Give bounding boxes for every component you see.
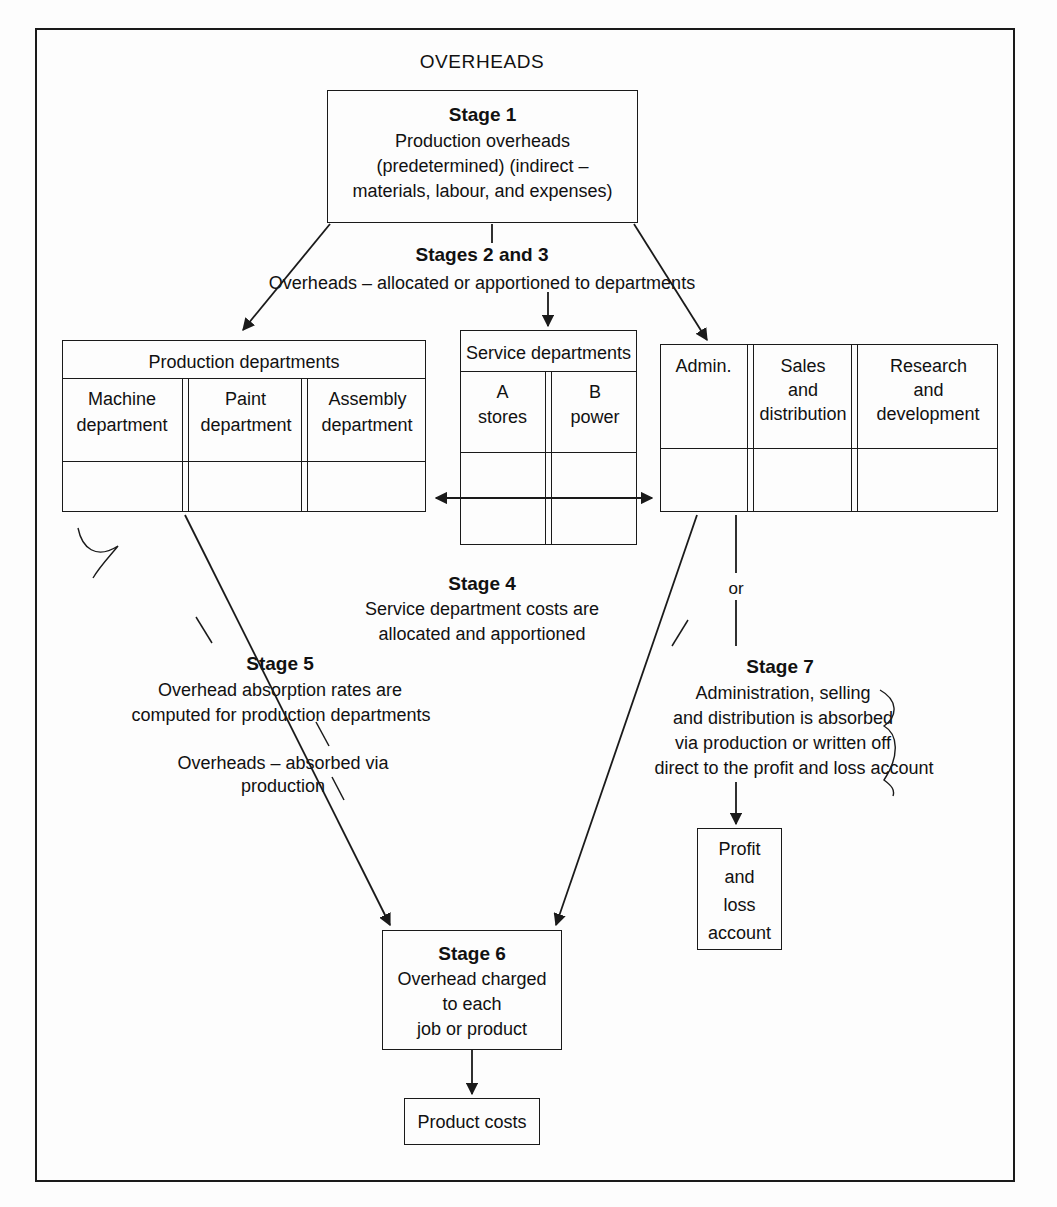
- service-col-1-line1: B: [553, 381, 637, 404]
- production-col-1-line2: department: [182, 414, 310, 437]
- other-col-2-line3: development: [853, 403, 1003, 426]
- stage4-line2: allocated and apportioned: [352, 623, 612, 646]
- service-col-0-line1: A: [460, 381, 545, 404]
- service-header-label: Service departments: [455, 342, 642, 365]
- other-col-divider-1a: [747, 344, 748, 512]
- product-costs-label: Product costs: [404, 1111, 540, 1134]
- production-header-separator: [62, 378, 426, 379]
- stages23-heading: Stages 2 and 3: [382, 243, 582, 267]
- stage5-heading: Stage 5: [200, 652, 360, 676]
- production-col-1-line1: Paint: [190, 388, 301, 411]
- service-header-separator: [460, 371, 637, 372]
- stage6-line1: Overhead charged: [378, 968, 566, 991]
- stage7-line3: via production or written off: [630, 732, 936, 755]
- production-col-divider-1a: [182, 378, 183, 512]
- stage6-line3: job or product: [382, 1018, 562, 1041]
- stage7-line2: and distribution is absorbed: [630, 707, 936, 730]
- other-col-1-line1: Sales: [755, 355, 851, 378]
- stage4-heading: Stage 4: [402, 572, 562, 596]
- other-col-1-line2: and: [755, 379, 851, 402]
- or-label: or: [718, 578, 754, 600]
- stage1-heading: Stage 1: [327, 103, 638, 127]
- profit-loss-line1: Profit: [697, 838, 782, 861]
- other-col-0-line1: Admin.: [660, 355, 747, 378]
- production-col-0-line1: Machine: [62, 388, 182, 411]
- stage6-line2: to each: [382, 993, 562, 1016]
- stages23-line1: Overheads – allocated or apportioned to …: [192, 272, 772, 295]
- service-col-divider-a: [545, 371, 546, 545]
- production-col-0-line2: department: [58, 414, 186, 437]
- service-col-1-line2: power: [553, 406, 637, 429]
- stage7-line4: direct to the profit and loss account: [608, 757, 980, 780]
- production-col-2-line1: Assembly: [309, 388, 426, 411]
- stage5-line2: computed for production departments: [120, 704, 442, 727]
- diagram-page: OVERHEADS Stage 1 Production overheads (…: [0, 0, 1057, 1207]
- stage4-line1: Service department costs are: [352, 598, 612, 621]
- production-row-separator: [62, 461, 426, 462]
- profit-loss-line2: and: [697, 866, 782, 889]
- service-row-separator: [460, 452, 637, 453]
- other-col-2-line1: Research: [859, 355, 998, 378]
- profit-loss-line3: loss: [697, 894, 782, 917]
- other-row-separator: [660, 448, 998, 449]
- stage7-heading: Stage 7: [700, 655, 860, 679]
- stage5-line3: Overheads – absorbed via production: [135, 752, 431, 798]
- profit-loss-line4: account: [692, 922, 787, 945]
- stage1-line3: materials, labour, and expenses): [312, 180, 653, 203]
- diagram-title: OVERHEADS: [382, 50, 582, 75]
- other-col-2-line2: and: [859, 379, 998, 402]
- service-col-0-line2: stores: [460, 406, 545, 429]
- other-col-divider-2a: [851, 344, 852, 512]
- stage6-heading: Stage 6: [382, 942, 562, 966]
- production-header-label: Production departments: [62, 351, 426, 374]
- stage1-line2: (predetermined) (indirect –: [319, 155, 646, 178]
- production-col-2-line2: department: [303, 414, 431, 437]
- stage1-line1: Production overheads: [327, 130, 638, 153]
- production-col-divider-2a: [301, 378, 302, 512]
- other-col-1-line3: distribution: [745, 403, 861, 426]
- stage5-line1: Overhead absorption rates are: [150, 679, 410, 702]
- stage7-line1: Administration, selling: [640, 682, 926, 705]
